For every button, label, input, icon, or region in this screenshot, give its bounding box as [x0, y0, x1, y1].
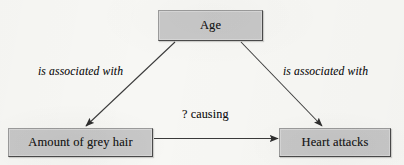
node-age-label: Age	[200, 19, 221, 32]
edge-age-to-grey-hair	[86, 42, 175, 126]
node-age[interactable]: Age	[158, 10, 263, 41]
edge-age-to-heart-attacks	[241, 42, 322, 126]
edge-label-age-to-grey-hair: is associated with	[38, 66, 123, 78]
node-heart-attacks[interactable]: Heart attacks	[279, 128, 391, 157]
edge-label-age-to-heart-attacks: is associated with	[283, 66, 368, 78]
node-grey-hair[interactable]: Amount of grey hair	[8, 128, 153, 157]
node-heart-attacks-label: Heart attacks	[302, 136, 369, 149]
diagram-canvas: Age Amount of grey hair Heart attacks is…	[0, 0, 404, 165]
node-grey-hair-label: Amount of grey hair	[28, 136, 132, 149]
edge-label-grey-hair-to-heart-attacks: ? causing	[182, 108, 229, 120]
